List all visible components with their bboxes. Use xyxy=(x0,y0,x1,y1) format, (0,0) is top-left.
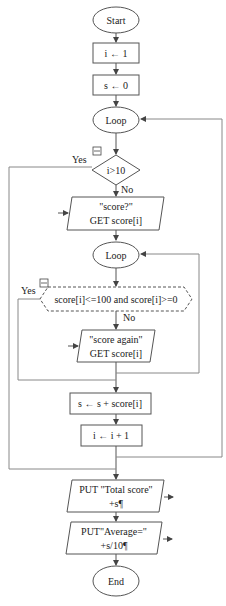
outer-yes-label: Yes xyxy=(72,154,87,165)
outer-decision[interactable]: i>10 xyxy=(92,155,140,185)
init-s-process[interactable]: s ← 0 xyxy=(93,75,139,95)
init-s-label: s ← 0 xyxy=(104,80,128,91)
flowchart-canvas: Start i ← 1 s ← 0 Loop i>10 Yes No "scor… xyxy=(0,0,226,606)
inner-collapse-icon[interactable] xyxy=(40,279,48,287)
inner-loop-label: Loop xyxy=(105,250,126,261)
init-i-label: i ← 1 xyxy=(105,48,128,59)
output1-line1: PUT "Total score" xyxy=(79,484,152,495)
output-average-io[interactable]: PUT"Average=" +s/10¶ xyxy=(66,522,162,554)
output1-line2: +s¶ xyxy=(109,498,124,509)
output2-line2: +s/10¶ xyxy=(101,540,128,551)
outer-loop-node[interactable]: Loop xyxy=(93,107,139,133)
inner-yes-label: Yes xyxy=(21,285,36,296)
accumulate-label: s ← s + score[i] xyxy=(78,398,142,409)
end-terminal[interactable]: End xyxy=(93,566,139,596)
input-score-io[interactable]: "score?" GET score[i] xyxy=(67,197,164,230)
end-label: End xyxy=(108,576,124,587)
inner-condition-label: score[i]<=100 and score[i]>=0 xyxy=(54,294,177,305)
outer-collapse-icon[interactable] xyxy=(93,147,101,155)
output2-line1: PUT"Average=" xyxy=(81,526,147,537)
start-terminal[interactable]: Start xyxy=(93,7,139,33)
inner-loop-node[interactable]: Loop xyxy=(93,242,139,268)
increment-label: i ← i + 1 xyxy=(93,430,129,441)
start-label: Start xyxy=(107,15,126,26)
init-i-process[interactable]: i ← 1 xyxy=(93,43,139,63)
output-total-io[interactable]: PUT "Total score" +s¶ xyxy=(67,480,164,512)
accumulate-process[interactable]: s ← s + score[i] xyxy=(70,393,151,414)
outer-condition-label: i>10 xyxy=(107,165,125,176)
outer-no-label: No xyxy=(121,184,133,195)
input2-line2: GET score[i] xyxy=(90,348,142,359)
inner-decision[interactable]: score[i]<=100 and score[i]>=0 xyxy=(40,287,192,311)
increment-process[interactable]: i ← i + 1 xyxy=(81,425,142,446)
input-score-again-io[interactable]: "score again" GET score[i] xyxy=(77,330,155,362)
input1-line2: GET score[i] xyxy=(90,215,142,226)
inner-no-label: No xyxy=(123,312,135,323)
outer-loop-label: Loop xyxy=(105,115,126,126)
input2-line1: "score again" xyxy=(89,334,142,345)
input1-line1: "score?" xyxy=(99,201,133,212)
